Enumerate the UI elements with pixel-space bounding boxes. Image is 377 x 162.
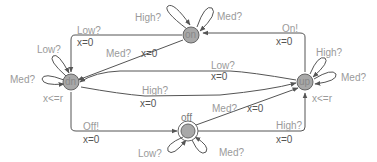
- label-off-up-med-sync: Med?: [212, 103, 237, 114]
- label-dn-up-sync: High?: [142, 85, 168, 96]
- label-up-med: Med?: [341, 72, 366, 83]
- state-name-on: on: [185, 29, 196, 40]
- edge-on-dn-med[interactable]: [78, 40, 183, 80]
- selfloop-on-med[interactable]: [197, 7, 214, 31]
- state-name-up: up: [299, 76, 310, 87]
- state-name-dn: dn: [65, 76, 76, 87]
- label-off-up-med-update: x=0: [247, 103, 263, 114]
- label-on-med: Med?: [217, 11, 242, 22]
- label-dn-off-sync: Off!: [83, 121, 99, 132]
- label-off-up-high-update: x=0: [276, 134, 292, 145]
- label-on-dn-med-sync: Med?: [106, 48, 131, 59]
- invariant-up: x<=r: [312, 93, 332, 104]
- state-name-off: off: [181, 112, 192, 123]
- label-up-on-update: x=0: [276, 36, 292, 47]
- label-up-dn-update: x=0: [211, 71, 227, 82]
- state-off[interactable]: [178, 121, 198, 141]
- label-off-med: Med?: [219, 147, 244, 158]
- invariant-dn: x<=r: [43, 93, 63, 104]
- edge-dn-up[interactable]: [81, 83, 296, 96]
- automaton-diagram: [0, 0, 377, 162]
- label-up-high: High?: [316, 47, 342, 58]
- label-up-on-sync: On!: [282, 23, 298, 34]
- label-on-dn-sync: Low?: [77, 25, 101, 36]
- label-dn-up-update: x=0: [140, 98, 156, 109]
- label-off-low: Low?: [138, 148, 162, 159]
- edge-up-dn[interactable]: [80, 71, 296, 82]
- label-on-dn-med-update: x=0: [141, 48, 157, 59]
- label-on-dn-update: x=0: [77, 37, 93, 48]
- label-dn-off-update: x=0: [83, 134, 99, 145]
- label-dn-med: Med?: [10, 74, 35, 85]
- selfloop-dn-med[interactable]: [42, 76, 64, 85]
- selfloop-dn-low[interactable]: [52, 55, 69, 76]
- selfloop-on-high[interactable]: [167, 5, 190, 29]
- label-on-high: High?: [135, 12, 161, 23]
- label-off-up-high-sync: High?: [276, 120, 302, 131]
- label-dn-low: Low?: [37, 44, 61, 55]
- label-up-dn-sync: Low?: [211, 60, 235, 71]
